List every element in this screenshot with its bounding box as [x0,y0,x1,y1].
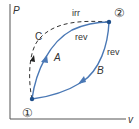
process-c-arrow-icon [30,55,35,62]
process-b-arrow-icon [78,76,86,84]
process-c-type-label: irr [72,8,80,18]
state-1-point [30,97,34,101]
process-b-type-label: rev [107,47,120,57]
x-axis-label: v [128,114,134,125]
process-c-label: C [35,31,42,42]
state-2-label: ② [114,6,125,20]
process-a-arrow-icon [41,55,48,63]
pv-diagram: P v ① ② irr C rev A rev B [0,0,139,129]
process-a-label: A [53,52,61,63]
process-b-label: B [97,65,104,76]
process-a-type-label: rev [75,32,88,42]
y-axis-label: P [13,5,20,16]
state-1-label: ① [22,106,33,120]
state-2-point [107,20,111,24]
